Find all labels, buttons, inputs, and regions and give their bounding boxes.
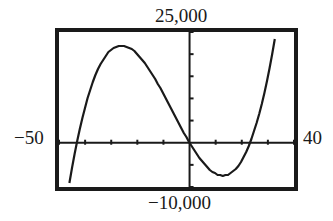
ymin-label: −10,000 (148, 193, 211, 212)
graph-plot-area (0, 0, 333, 221)
xmin-label: −50 (14, 128, 44, 147)
ymax-label: 25,000 (155, 6, 207, 25)
xmax-label: 40 (303, 128, 322, 147)
axes (59, 32, 294, 187)
function-curve (69, 39, 274, 183)
